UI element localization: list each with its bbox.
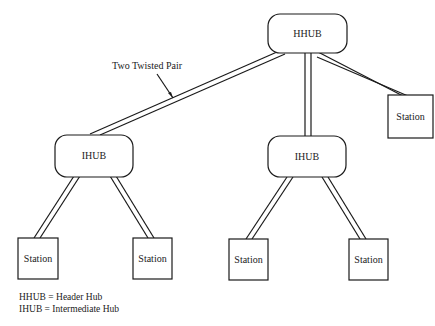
network-diagram: Two Twisted Pair HHUB Station IHUB IHUB …: [0, 0, 435, 326]
hhub-node: HHUB: [268, 14, 347, 53]
station-3: Station: [229, 239, 268, 280]
station-3-label: Station: [234, 254, 262, 265]
legend-ihub: IHUB = Intermediate Hub: [19, 303, 119, 315]
arrowhead-icon: [168, 92, 173, 98]
station-1-label: Station: [24, 253, 52, 264]
hhub-label: HHUB: [293, 28, 322, 39]
station-label: Station: [396, 111, 424, 122]
station-2: Station: [133, 238, 172, 279]
legend: HHUB = Header Hub IHUB = Intermediate Hu…: [19, 291, 119, 315]
wire-ihub-left-station-1: [34, 176, 80, 238]
ihub-left-label: IHUB: [82, 150, 107, 161]
legend-hhub: HHUB = Header Hub: [19, 291, 119, 303]
twisted-pair-label: Two Twisted Pair: [112, 60, 183, 71]
station-4: Station: [349, 239, 388, 280]
station-top-right: Station: [388, 95, 433, 138]
wire-ihub-right-station-4: [322, 177, 366, 239]
ihub-right-label: IHUB: [295, 151, 320, 162]
station-2-label: Station: [138, 253, 166, 264]
station-1: Station: [18, 238, 58, 279]
wire-hhub-station-top-right: [317, 52, 408, 96]
ihub-left-node: IHUB: [55, 135, 133, 177]
wire-ihub-right-station-3: [246, 177, 293, 239]
wire-ihub-left-station-2: [110, 176, 154, 238]
station-4-label: Station: [354, 254, 382, 265]
ihub-right-node: IHUB: [268, 136, 346, 177]
wire-hhub-ihub-right: [305, 53, 311, 137]
